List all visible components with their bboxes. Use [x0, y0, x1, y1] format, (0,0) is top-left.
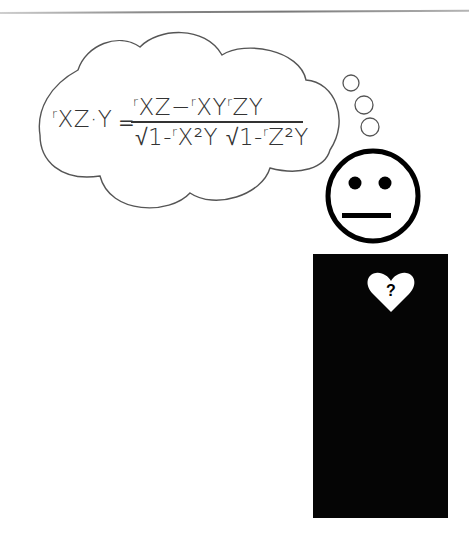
- formula-lhs: rXZ·Y: [52, 106, 112, 132]
- heart-question-mark: ?: [380, 282, 402, 300]
- formula-numerator: rXZ−rXYrZY: [133, 94, 263, 120]
- face-outline: [328, 151, 418, 241]
- right-eye: [379, 177, 392, 190]
- thought-bubble-medium: [355, 96, 373, 114]
- thought-bubble-large: [361, 118, 379, 136]
- left-eye: [349, 177, 362, 190]
- formula-denominator: √1-rX²Y √1-rZ²Y: [135, 124, 309, 151]
- thought-bubble-small: [343, 75, 359, 91]
- neutral-face-icon: [328, 151, 418, 241]
- illustration: [0, 0, 469, 557]
- mouth: [342, 213, 391, 218]
- fraction-bar: [131, 121, 303, 123]
